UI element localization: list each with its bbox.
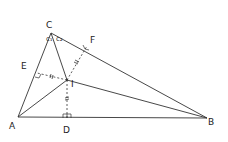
label-angle-c2: c₂ xyxy=(56,35,63,43)
bisector-bi xyxy=(67,80,207,118)
tick-ie xyxy=(50,74,53,79)
perpendicular-if xyxy=(67,46,87,80)
label-d: D xyxy=(63,125,70,135)
right-angle-e xyxy=(35,74,41,78)
tick-id xyxy=(65,97,69,100)
label-i: I xyxy=(71,79,74,89)
label-b: B xyxy=(208,117,214,127)
label-a: A xyxy=(9,121,16,131)
side-ab xyxy=(18,117,207,118)
label-e: E xyxy=(21,61,27,71)
side-bc xyxy=(51,33,207,118)
label-f: F xyxy=(90,35,95,45)
label-angle-c1: c₁ xyxy=(46,35,53,43)
incenter-diagram: C A B D E F I c₁ c₂ xyxy=(0,0,228,142)
label-c: C xyxy=(46,20,52,30)
tick-if xyxy=(74,60,79,64)
incenter-point xyxy=(66,79,68,81)
